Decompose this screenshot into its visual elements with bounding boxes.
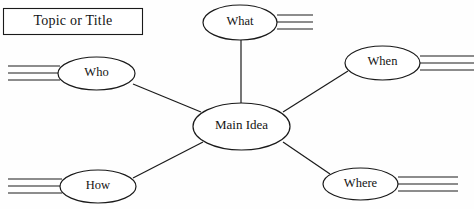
node-oval-when[interactable] — [345, 46, 420, 80]
connector-main-to-where — [283, 142, 330, 174]
writing-lines-what[interactable] — [277, 15, 313, 29]
connector-main-to-how — [133, 142, 203, 178]
node-oval-where[interactable] — [323, 168, 398, 200]
writing-lines-how[interactable] — [8, 179, 62, 193]
connector-main-to-who — [133, 84, 201, 112]
writing-lines-who[interactable] — [8, 66, 60, 80]
connector-main-to-when — [283, 71, 348, 112]
diagram-svg — [0, 0, 474, 209]
topic-title-box[interactable] — [4, 9, 143, 35]
writing-lines-where[interactable] — [398, 177, 458, 191]
node-oval-who[interactable] — [58, 57, 135, 90]
writing-lines-when[interactable] — [420, 56, 474, 70]
node-oval-main-idea[interactable] — [193, 103, 290, 150]
node-oval-what[interactable] — [203, 5, 277, 40]
node-oval-how[interactable] — [60, 170, 136, 203]
graphic-organizer-canvas: Topic or Title Main Idea What Who When H… — [0, 0, 474, 209]
